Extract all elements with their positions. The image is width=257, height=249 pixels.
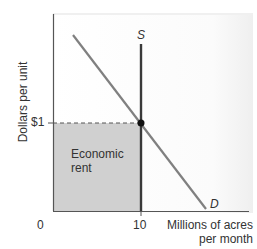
y-axis-label: Dollars per unit	[16, 47, 30, 157]
x-axis-label-line2: per month	[167, 232, 253, 246]
x-axis-label: Millions of acres per month	[167, 218, 253, 246]
origin-label: 0	[37, 218, 44, 232]
equilibrium-point	[138, 120, 145, 127]
x-axis-label-line1: Millions of acres	[167, 218, 253, 232]
economic-rent-label-line1: Economic	[71, 147, 124, 161]
supply-label: S	[137, 28, 145, 42]
y-tick-label: $1	[31, 115, 44, 129]
x-tick-label: 10	[133, 218, 146, 232]
economic-rent-label: Economic rent	[71, 147, 124, 175]
economic-rent-label-line2: rent	[71, 161, 124, 175]
demand-label: D	[210, 197, 219, 211]
